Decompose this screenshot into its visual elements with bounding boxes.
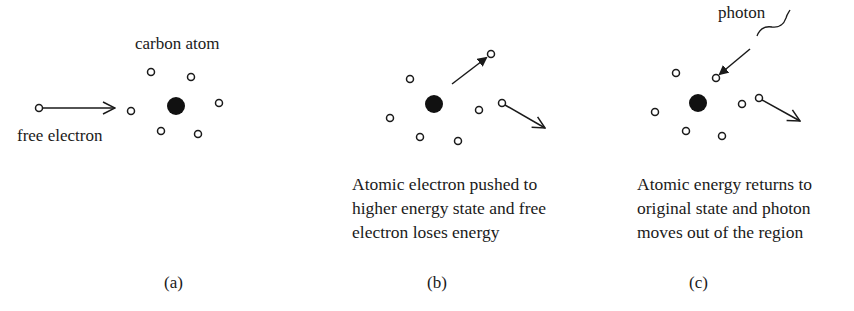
electron [683,128,690,135]
electron [739,101,746,108]
caption-line: moves out of the region [637,220,812,244]
panel-a-letter: (a) [164,273,183,293]
returning-electron [713,75,720,82]
electron [719,133,726,140]
panel-b-atom [387,51,546,145]
electron [476,107,483,114]
panel-c-letter: (c) [689,273,708,293]
caption-line: electron loses energy [352,220,546,244]
photon-label: photon [718,2,765,23]
caption-line: Atomic electron pushed to [352,172,546,196]
outgoing-electron-arrow [505,105,545,128]
electron [407,76,414,83]
electron [387,115,394,122]
electron [148,69,155,76]
free-electron [499,100,506,107]
free-electron [36,105,43,112]
electron [417,134,424,141]
panel-c-caption: Atomic energy returns to original state … [637,172,812,244]
nucleus [167,97,185,115]
electron [158,128,165,135]
electron [128,108,135,115]
caption-line: higher energy state and free [352,196,546,220]
electron [455,138,462,145]
electron [652,109,659,116]
panel-b-letter: (b) [427,273,447,293]
diagram-canvas [0,0,854,311]
nucleus [689,94,707,112]
panel-c-atom [652,10,801,140]
outgoing-electron-arrow [762,100,800,121]
electron [673,70,680,77]
free-electron-label: free electron [17,125,102,146]
excited-electron [488,51,495,58]
excitation-arrow [452,58,486,84]
electron [195,131,202,138]
carbon-atom-label: carbon atom [135,33,220,54]
nucleus [425,95,443,113]
panel-b-caption: Atomic electron pushed to higher energy … [352,172,546,244]
free-electron [756,95,763,102]
electron [188,74,195,81]
electron [216,100,223,107]
caption-line: Atomic energy returns to [637,172,812,196]
caption-line: original state and photon [637,196,812,220]
photon-arrow [720,49,750,74]
